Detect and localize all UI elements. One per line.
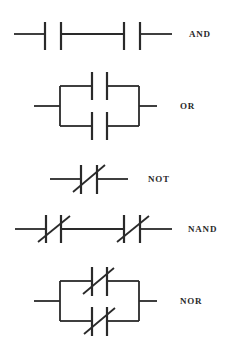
gate-rung-nor — [34, 267, 157, 336]
gate-label-and: AND — [189, 30, 211, 39]
ladder-logic-diagram: AND OR NOT NAND NOR — [0, 0, 235, 352]
gate-rung-or — [34, 72, 157, 140]
gate-label-nand: NAND — [188, 225, 217, 234]
gate-label-or: OR — [180, 102, 195, 111]
gate-label-nor: NOR — [180, 297, 202, 306]
gate-rung-not — [50, 165, 128, 194]
gate-rung-and — [14, 22, 172, 50]
gate-label-not: NOT — [148, 175, 170, 184]
gate-rung-nand — [15, 215, 172, 243]
